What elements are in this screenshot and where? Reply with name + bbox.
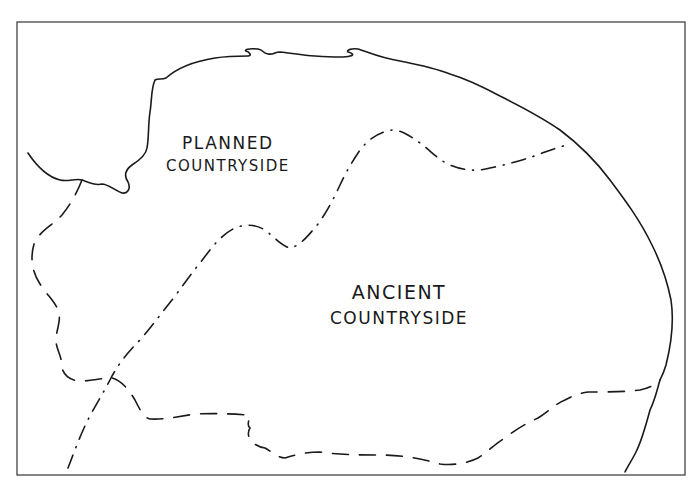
region-label-ancient-countryside: ANCIENT COUNTRYSIDE [330, 283, 468, 327]
planned-label-line1: PLANNED [166, 135, 290, 152]
ancient-label-line2: COUNTRYSIDE [330, 310, 468, 327]
coastline [28, 49, 672, 472]
planned-ancient-division [68, 130, 566, 468]
ancient-label-line1: ANCIENT [330, 283, 468, 302]
planned-label-line2: COUNTRYSIDE [166, 159, 290, 174]
region-label-planned-countryside: PLANNED COUNTRYSIDE [166, 135, 290, 174]
map-frame [17, 22, 685, 475]
map-canvas [0, 0, 700, 489]
